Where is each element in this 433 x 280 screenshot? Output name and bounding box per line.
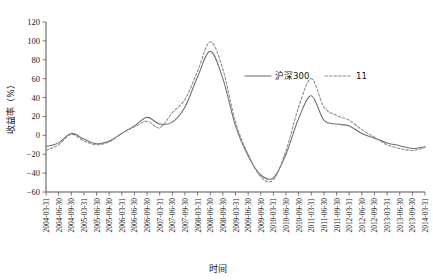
x-tick-label: 2011-06-30	[320, 198, 329, 233]
x-tick-label: 2013-03-31	[383, 198, 392, 233]
x-tick-label: 2007-03-31	[156, 198, 165, 233]
y-tick-label: −20	[27, 149, 40, 159]
y-tick-label: −40	[27, 168, 40, 178]
x-tick-label: 2010-06-30	[282, 198, 291, 233]
x-tick-label: 2011-03-31	[307, 198, 316, 233]
x-tick-label: 2007-09-30	[181, 198, 190, 233]
x-tick-label: 2012-06-30	[358, 198, 367, 233]
y-tick-label: 60	[32, 74, 41, 84]
returns-line-chart: −60−40−20020406080100120 收益率（%） 2004-03-…	[0, 0, 433, 280]
y-tick-label: 40	[32, 93, 41, 103]
x-tick-label: 2008-06-30	[206, 198, 215, 233]
x-tick-label: 2007-06-30	[168, 198, 177, 233]
x-tick-label: 2009-09-30	[257, 198, 266, 233]
x-tick-label: 2006-06-30	[130, 198, 139, 233]
x-tick-label: 2009-03-31	[232, 198, 241, 233]
x-tick-label: 2004-03-31	[42, 198, 51, 233]
x-tick-label: 2008-09-30	[219, 198, 228, 233]
x-tick-label: 2014-03-31	[421, 198, 430, 233]
y-axis-title: 收益率（%）	[5, 80, 16, 134]
y-tick-label: 80	[32, 55, 41, 65]
x-tick-label: 2005-09-30	[105, 198, 114, 233]
y-tick-label: 100	[27, 36, 40, 46]
x-tick-label: 2006-09-30	[143, 198, 152, 233]
x-tick-label: 2013-06-30	[396, 198, 405, 233]
y-tick-label: 0	[36, 130, 40, 140]
x-tick-label: 2009-06-30	[244, 198, 253, 233]
y-tick-label: 20	[32, 111, 41, 121]
y-tick-label: 120	[27, 17, 40, 27]
chart-canvas: −60−40−20020406080100120 收益率（%） 2004-03-…	[0, 0, 433, 280]
x-tick-label: 2012-03-31	[345, 198, 354, 233]
x-tick-label: 2005-03-31	[80, 198, 89, 233]
x-axis-tick-labels: 2004-03-312004-06-302004-09-302005-03-31…	[42, 198, 430, 233]
x-tick-label: 2008-03-31	[194, 198, 203, 233]
chart-background	[0, 0, 433, 280]
x-tick-label: 2005-06-30	[93, 198, 102, 233]
x-tick-label: 2013-09-30	[408, 198, 417, 233]
x-axis-title: 时间	[209, 263, 227, 274]
x-tick-label: 2011-09-30	[333, 198, 342, 233]
x-tick-label: 2010-09-30	[295, 198, 304, 233]
legend-label-huShen300: 沪深300	[275, 70, 309, 81]
x-tick-label: 2006-03-31	[118, 198, 127, 233]
y-tick-label: −60	[27, 187, 40, 197]
x-tick-label: 2004-09-30	[67, 198, 76, 233]
legend-label-eleven: 11	[356, 71, 367, 81]
x-tick-label: 2004-06-30	[55, 198, 64, 233]
x-tick-label: 2012-09-30	[370, 198, 379, 233]
x-tick-label: 2010-03-31	[269, 198, 278, 233]
